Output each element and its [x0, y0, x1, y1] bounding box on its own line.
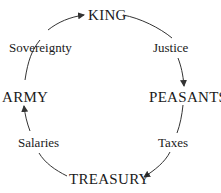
node-peasants: PEASANTS — [149, 90, 221, 105]
edge-label-sovereignty: Sovereignty — [9, 41, 72, 54]
node-army: ARMY — [2, 90, 48, 105]
edge-label-salaries: Salaries — [18, 136, 59, 149]
node-treasury: TREASURY — [69, 172, 150, 187]
edge-label-taxes: Taxes — [158, 136, 188, 149]
node-king: KING — [88, 8, 127, 23]
edge-label-justice: Justice — [153, 41, 188, 54]
